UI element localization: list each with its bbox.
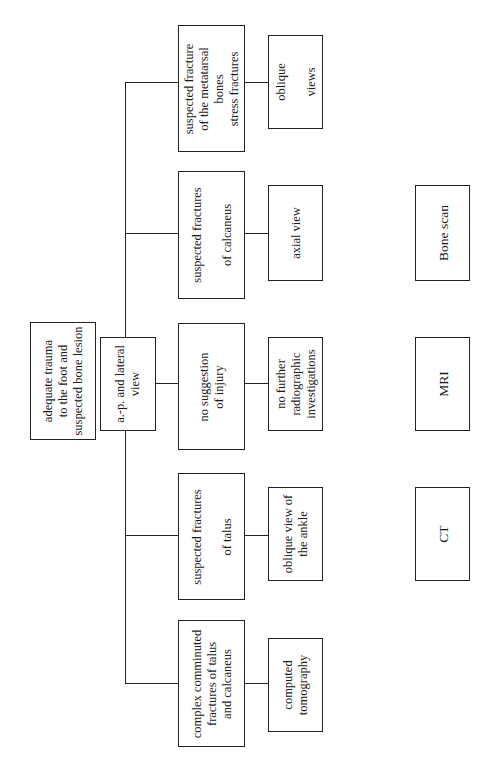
connector-trunk-calcaneus <box>125 233 178 234</box>
ap-lateral-node: a.-p. and lateral view <box>100 337 156 431</box>
finding-text-metatarsal: suspected fracture of the metatarsal bon… <box>182 43 242 134</box>
action-text-calcaneus: axial view <box>288 207 303 259</box>
finding-text-talus: suspected fractures of talus <box>189 489 234 584</box>
finding-node-talus: suspected fractures of talus <box>178 473 245 600</box>
finding-node-no-injury: no suggestion of injury <box>178 323 245 450</box>
flowchart-canvas: adequate trauma to the foot and suspecte… <box>0 0 490 762</box>
modality-node-mri: MRI <box>415 337 470 431</box>
action-text-talus: oblique view of the ankle <box>281 495 311 573</box>
finding-text-no-injury: no suggestion of injury <box>197 352 227 421</box>
root-node-text: adequate trauma to the foot and suspecte… <box>41 326 86 435</box>
root-node: adequate trauma to the foot and suspecte… <box>30 322 96 440</box>
connector-injury-action <box>245 383 268 384</box>
finding-node-complex: complex comminuted fractures of talus an… <box>178 620 245 747</box>
ap-lateral-node-text: a.-p. and lateral view <box>113 345 143 423</box>
connector-metatarsal-action <box>245 82 268 83</box>
modality-text-bone-scan: Bone scan <box>435 205 450 261</box>
connector-trunk-talus <box>125 535 178 536</box>
modality-text-ct: CT <box>435 525 450 542</box>
modality-node-bone-scan: Bone scan <box>415 185 470 281</box>
action-node-no-injury: no further radiographic investigations <box>268 337 323 431</box>
connector-complex-action <box>245 683 268 684</box>
connector-calcaneus-action <box>245 233 268 234</box>
modality-node-ct: CT <box>415 487 470 581</box>
action-text-metatarsal: oblique views <box>273 63 318 101</box>
modality-text-mri: MRI <box>435 371 450 397</box>
finding-text-complex: complex comminuted fractures of talus an… <box>189 629 234 738</box>
action-text-no-injury: no further radiographic investigations <box>273 349 318 418</box>
finding-node-metatarsal: suspected fracture of the metatarsal bon… <box>178 25 245 152</box>
connector-trunk-metatarsal <box>125 82 178 83</box>
action-node-complex: computed tomography <box>268 638 323 732</box>
finding-text-calcaneus: suspected fractures of calcaneus <box>189 187 234 282</box>
connector-ap-injury <box>155 383 178 384</box>
action-text-complex: computed tomography <box>281 655 311 715</box>
connector-trunk-complex <box>125 683 178 684</box>
action-node-metatarsal: oblique views <box>268 35 323 129</box>
connector-talus-action <box>245 535 268 536</box>
finding-node-calcaneus: suspected fractures of calcaneus <box>178 171 245 299</box>
action-node-talus: oblique view of the ankle <box>268 487 323 581</box>
action-node-calcaneus: axial view <box>268 185 323 281</box>
